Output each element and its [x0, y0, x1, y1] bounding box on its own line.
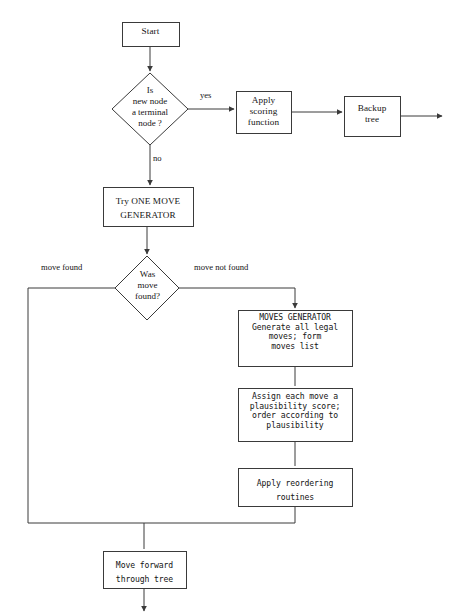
edge-label-yes: yes — [200, 90, 211, 100]
node-assign-plausibility[interactable] — [238, 388, 352, 441]
node-was-move-found[interactable] — [115, 256, 179, 320]
flowchart-canvas — [0, 0, 452, 615]
edge-label-no: no — [153, 153, 162, 163]
node-backup-tree[interactable] — [344, 96, 400, 136]
node-terminal-check[interactable] — [112, 73, 188, 145]
edge-apply-reordering-to-junction — [28, 506, 295, 523]
edge-label-move-not-found: move not found — [194, 262, 248, 272]
node-start[interactable] — [122, 22, 179, 46]
node-apply-reordering[interactable] — [238, 468, 352, 506]
edge-label-move-found: move found — [41, 262, 82, 272]
node-apply-scoring[interactable] — [236, 91, 291, 133]
node-move-forward[interactable] — [103, 551, 186, 588]
node-try-one-move-generator[interactable] — [103, 187, 193, 226]
node-moves-generator[interactable] — [238, 310, 352, 366]
edge-move-found-to-junction — [28, 288, 115, 523]
edge-move-not-found-to-moves-generator — [179, 288, 295, 308]
